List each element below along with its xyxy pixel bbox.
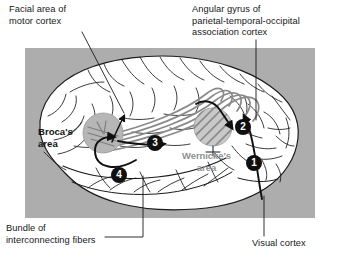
label-wernickes-area: Wernicke's area (182, 150, 231, 173)
callout-visual-cortex: Visual cortex (252, 238, 306, 250)
label-brocas-area: Broca's area (38, 126, 73, 150)
step-marker-3: 3 (147, 135, 163, 151)
step-marker-2: 2 (235, 119, 251, 135)
step-marker-4: 4 (111, 167, 127, 183)
step-marker-1: 1 (246, 155, 262, 171)
callout-facial-area-motor-cortex: Facial area of motor cortex (9, 4, 66, 27)
callout-angular-gyrus: Angular gyrus of parietal-temporal-occip… (192, 4, 300, 39)
callout-bundle-interconnecting-fibers: Bundle of interconnecting fibers (6, 223, 95, 246)
brain-language-pathway-figure: Facial area of motor cortex Angular gyru… (0, 0, 338, 261)
